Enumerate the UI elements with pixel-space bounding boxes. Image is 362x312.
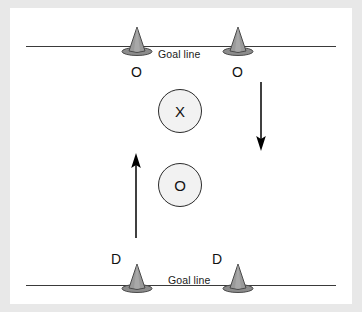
marker-defender-label: O [174, 177, 186, 194]
diagram-panel: Goal line O O X [10, 8, 352, 304]
goal-line-top-label: Goal line [158, 48, 200, 60]
goal-line-top [26, 46, 336, 47]
marker-attacker: X [158, 89, 202, 133]
marker-defender: O [158, 163, 202, 207]
cone-bottom-left [120, 261, 154, 295]
cone-top-right [221, 24, 255, 58]
cone-top-left [120, 24, 154, 58]
cone-bottom-right-label: D [212, 251, 222, 267]
goal-line-bottom-label: Goal line [168, 274, 210, 286]
field-area: Goal line O O X [10, 8, 352, 304]
up-arrow-icon [128, 152, 144, 238]
diagram-canvas: Goal line O O X [0, 0, 362, 312]
down-arrow-icon [253, 82, 269, 152]
marker-attacker-label: X [175, 103, 185, 120]
cone-top-left-label: O [131, 64, 142, 80]
cone-bottom-left-label: D [111, 251, 121, 267]
cone-bottom-right [221, 261, 255, 295]
cone-top-right-label: O [232, 64, 243, 80]
